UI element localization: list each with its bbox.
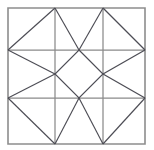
quilt-block-figure: Ohio Star / Sawtooth quilt block line dr… (0, 0, 154, 150)
figure-background (0, 0, 154, 150)
quilt-block-drawing (0, 0, 154, 150)
